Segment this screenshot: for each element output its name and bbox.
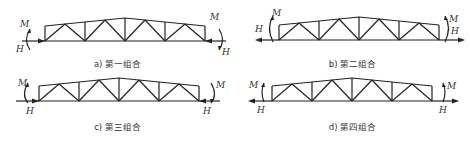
moment-label-left: M: [248, 80, 259, 90]
force-label-right: H: [202, 106, 211, 116]
caption-b: b) 第二组合: [235, 57, 470, 69]
force-label-left: H: [25, 106, 34, 116]
caption-c: c) 第三组合: [0, 120, 235, 132]
panel-d: M H M H d) 第四组合: [235, 73, 470, 146]
panel-c: M H M H c) 第三组合: [0, 73, 235, 146]
panel-b: M H M H b) 第二组合: [235, 0, 470, 73]
force-label-left: H: [254, 24, 263, 34]
caption-a: a) 第一组合: [0, 57, 235, 69]
force-label-right: H: [221, 47, 230, 57]
force-label-right: H: [438, 105, 447, 115]
moment-label-right: M: [448, 14, 459, 24]
caption-d: d) 第四组合: [235, 120, 470, 132]
moment-label-left: M: [271, 8, 282, 18]
force-label-left: H: [15, 44, 24, 54]
force-label-left: H: [256, 105, 265, 115]
panel-a: M H M H a) 第一组合: [0, 0, 235, 73]
truss-diagram-b: M H M H: [235, 0, 470, 60]
truss-diagram-a: M H M H: [0, 0, 235, 60]
force-label-right: H: [450, 26, 459, 36]
moment-label-right: M: [209, 12, 220, 22]
moment-label-left: M: [17, 78, 28, 88]
moment-label-left: M: [19, 19, 30, 29]
moment-label-right: M: [215, 80, 226, 90]
moment-label-right: M: [446, 81, 457, 91]
